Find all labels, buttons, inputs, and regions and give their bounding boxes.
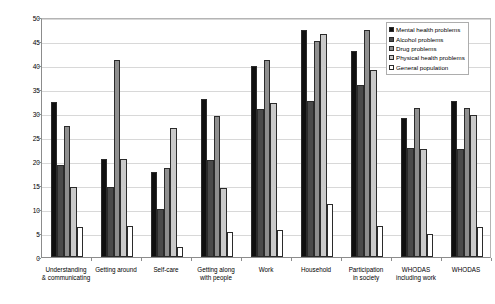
chart-legend: Mental health problemsAlcohol problemsDr… <box>386 22 469 75</box>
y-axis-tick-mark <box>38 210 41 211</box>
y-axis-tick-mark <box>38 258 41 259</box>
bar-group <box>192 19 242 257</box>
x-axis-tick-mark <box>391 258 392 261</box>
bar <box>477 227 483 257</box>
bar <box>227 232 233 257</box>
y-axis-tick-mark <box>38 138 41 139</box>
legend-item: Physical health problems <box>389 53 465 62</box>
y-axis-tick-mark <box>38 18 41 19</box>
legend-item: Mental health problems <box>389 25 465 34</box>
y-axis-tick-mark <box>38 42 41 43</box>
legend-item: General population <box>389 63 465 72</box>
x-axis-tick-mark <box>291 258 292 261</box>
x-axis-tick-mark <box>341 258 342 261</box>
bar-group <box>42 19 92 257</box>
legend-label: Physical health problems <box>396 54 465 61</box>
legend-label: General population <box>396 64 448 71</box>
y-axis-tick-mark <box>38 162 41 163</box>
legend-swatch <box>389 65 394 70</box>
legend-item: Drug problems <box>389 44 465 53</box>
x-axis-tick-mark <box>241 258 242 261</box>
bar <box>377 226 383 257</box>
bar-group <box>142 19 192 257</box>
legend-swatch <box>389 55 394 60</box>
bar <box>127 226 133 257</box>
bar-group <box>292 19 342 257</box>
bar-group <box>92 19 142 257</box>
x-axis-tick-mark <box>441 258 442 261</box>
legend-swatch <box>389 37 394 42</box>
legend-item: Alcohol problems <box>389 34 465 43</box>
legend-label: Mental health problems <box>396 26 460 33</box>
bar-group <box>342 19 392 257</box>
legend-swatch <box>389 46 394 51</box>
bar-group <box>242 19 292 257</box>
x-axis-tick-mark <box>141 258 142 261</box>
bar <box>177 247 183 257</box>
y-axis-tick-mark <box>38 66 41 67</box>
x-axis-tick-mark <box>191 258 192 261</box>
y-axis-tick-mark <box>38 234 41 235</box>
bar <box>277 230 283 257</box>
bar <box>327 204 333 257</box>
y-axis-tick-mark <box>38 90 41 91</box>
legend-label: Drug problems <box>396 45 437 52</box>
legend-swatch <box>389 27 394 32</box>
y-axis-tick-mark <box>38 186 41 187</box>
legend-label: Alcohol problems <box>396 36 443 43</box>
y-axis-tick-mark <box>38 114 41 115</box>
x-axis-tick-label: WHODAS <box>435 266 495 274</box>
grouped-bar-chart: Adjusted means 05101520253035404550 Unde… <box>0 0 495 304</box>
bar <box>170 128 176 257</box>
x-axis-tick-mark <box>91 258 92 261</box>
bar <box>427 234 433 257</box>
bar <box>77 227 83 257</box>
x-axis-tick-mark <box>491 258 492 261</box>
